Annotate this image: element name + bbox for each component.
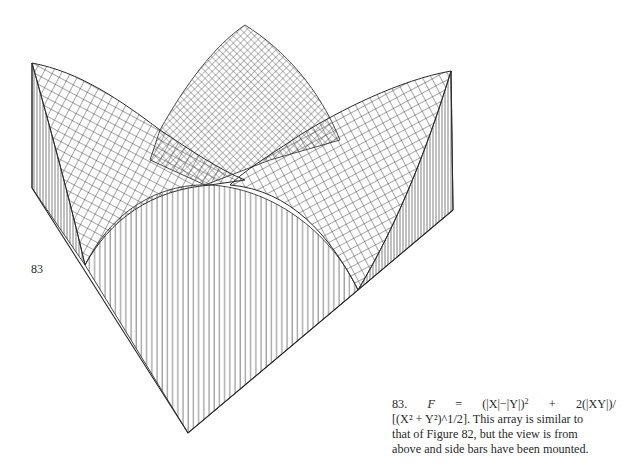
caption-term-1: (|X|−|Y|)2 bbox=[482, 397, 528, 412]
caption-var-f: F bbox=[427, 397, 434, 412]
caption-equals: = bbox=[455, 397, 462, 412]
caption-line-2: [(X² + Y²)^1/2]. This array is similar t… bbox=[392, 412, 616, 427]
caption-line-4: above and side bars have been mounted. bbox=[392, 442, 616, 457]
figure-caption: 83. F = (|X|−|Y|)2 + 2(|XY|)/ [(X² + Y²)… bbox=[392, 397, 616, 457]
figure-number-label: 83 bbox=[31, 262, 43, 276]
caption-plus: + bbox=[549, 397, 556, 412]
caption-number: 83. bbox=[392, 397, 407, 412]
caption-term-2: 2(|XY|)/ bbox=[576, 397, 616, 412]
caption-line-3: that of Figure 82, but the view is from bbox=[392, 427, 616, 442]
surface-plot-figure bbox=[0, 0, 622, 463]
caption-line-1: 83. F = (|X|−|Y|)2 + 2(|XY|)/ bbox=[392, 397, 616, 412]
